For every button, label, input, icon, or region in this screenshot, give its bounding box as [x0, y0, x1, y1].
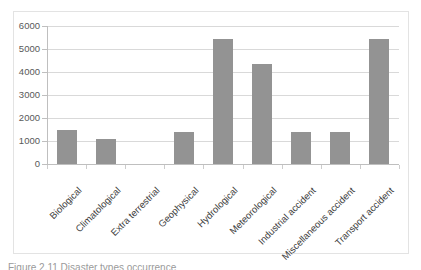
x-tick-7 [321, 165, 322, 169]
bar-miscellaneous-accident[interactable] [330, 132, 350, 164]
x-tick-4 [203, 165, 204, 169]
chart-frame: 0100020003000400050006000 BiologicalClim… [13, 11, 409, 254]
x-tick-8 [360, 165, 361, 169]
x-tick-0 [47, 165, 48, 169]
bar-geophysical[interactable] [174, 132, 194, 164]
y-axis-label-4000: 4000 [10, 67, 40, 77]
y-axis-label-2000: 2000 [10, 113, 40, 123]
figure-caption: Figure 2.11 Disaster types occurrence [8, 262, 421, 270]
figure-container: 0100020003000400050006000 BiologicalClim… [0, 0, 421, 270]
x-tick-3 [164, 165, 165, 169]
plot-area [47, 26, 399, 164]
bar-transport-accident[interactable] [369, 39, 389, 164]
y-axis-label-0: 0 [10, 159, 40, 169]
y-axis-label-6000: 6000 [10, 21, 40, 31]
x-tick-1 [86, 165, 87, 169]
gridline-0 [47, 164, 399, 165]
y-axis-label-1000: 1000 [10, 136, 40, 146]
bar-climatological[interactable] [96, 139, 116, 164]
bar-biological[interactable] [57, 130, 77, 164]
bar-meteorological[interactable] [252, 64, 272, 164]
x-axis-label-biological: Biological [0, 185, 83, 270]
x-tick-5 [243, 165, 244, 169]
y-axis-label-3000: 3000 [10, 90, 40, 100]
x-tick-2 [125, 165, 126, 169]
x-tick-9 [399, 165, 400, 169]
bar-hydrological[interactable] [213, 39, 233, 164]
bar-industrial-accident[interactable] [291, 132, 311, 164]
y-axis-label-5000: 5000 [10, 44, 40, 54]
x-tick-6 [282, 165, 283, 169]
